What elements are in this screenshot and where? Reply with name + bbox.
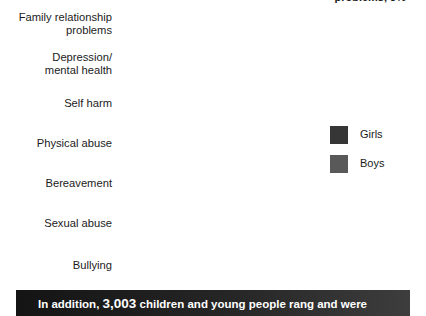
bar-value-label: 21% — [279, 66, 299, 78]
bar-boys: 28% — [118, 24, 365, 39]
bar-girls — [118, 8, 426, 23]
category-label: Physical abuse — [0, 137, 112, 149]
bar-girls: 11% — [118, 168, 215, 183]
category-label: Bereavement — [0, 177, 112, 189]
bar-boys: 13% — [118, 144, 233, 159]
legend-item-boys: Boys — [330, 153, 422, 178]
bar-value-label: 13% — [208, 146, 228, 158]
chart-legend: Girls Boys — [330, 124, 422, 182]
banner-lead: In addition, — [38, 298, 99, 310]
bar-boys: 21% — [118, 64, 303, 79]
category-label: Depression/ mental health — [0, 51, 112, 76]
bottom-banner: In addition, 3,003 children and young pe… — [16, 290, 410, 316]
bar-girls: 21% — [118, 48, 303, 63]
bar-value-label: 22% — [288, 90, 308, 102]
bar-group: Bullying10%14% — [0, 250, 426, 281]
bar-girls: 10% — [118, 250, 206, 265]
legend-label-girls: Girls — [360, 128, 383, 140]
bar-boys: 17% — [118, 184, 268, 199]
category-label: Sexual abuse — [0, 217, 112, 229]
bar-value-label: 28% — [341, 26, 361, 38]
legend-item-girls: Girls — [330, 124, 422, 149]
banner-number: 3,003 — [103, 296, 137, 311]
bar-value-label: 15% — [226, 210, 246, 222]
bar-value-label: 17% — [244, 186, 264, 198]
bar-girls: 14% — [118, 128, 241, 143]
bar-group: Sexual abuse15%5% — [0, 208, 426, 239]
bar-value-label: 5% — [143, 226, 158, 238]
bar-value-label: 10% — [182, 252, 202, 264]
bar-value-label: 21% — [279, 50, 299, 62]
bar-girls: 22% — [118, 88, 312, 103]
bar-boys: 14% — [118, 266, 241, 281]
category-label: Self harm — [0, 97, 112, 109]
bar-group: Depression/ mental health21%21% — [0, 48, 426, 79]
bar-group: Family relationship problems28% — [0, 8, 426, 39]
bar-value-label: 11% — [191, 170, 211, 182]
bar-girls: 15% — [118, 208, 250, 223]
bar-value-label: 14% — [217, 268, 237, 280]
legend-swatch-boys-icon — [330, 155, 348, 173]
category-label: Family relationship problems — [0, 11, 112, 36]
bottom-banner-text: In addition, 3,003 children and young pe… — [38, 296, 367, 311]
bar-value-label: 13% — [208, 106, 228, 118]
banner-tail: children and young people rang and were — [140, 298, 367, 310]
bar-value-label: 14% — [217, 130, 237, 142]
bar-boys: 5% — [118, 224, 162, 239]
bar-group: Self harm22%13% — [0, 88, 426, 119]
legend-label-boys: Boys — [360, 157, 384, 169]
legend-swatch-girls-icon — [330, 126, 348, 144]
bar-boys: 13% — [118, 104, 233, 119]
category-label: Bullying — [0, 259, 112, 271]
